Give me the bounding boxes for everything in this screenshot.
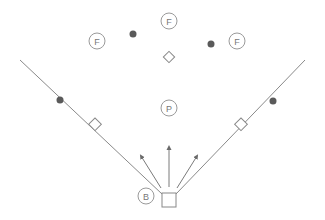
dot-marker-left-field bbox=[130, 31, 137, 38]
fielder-center-label: F bbox=[166, 17, 172, 27]
fielder-left: F bbox=[89, 33, 105, 49]
pitcher-label: P bbox=[166, 104, 172, 114]
third-base-icon bbox=[89, 118, 102, 131]
pitcher: P bbox=[161, 100, 177, 116]
fielder-center: F bbox=[161, 13, 177, 29]
fielder-right-label: F bbox=[234, 37, 240, 47]
home-plate-square bbox=[162, 193, 176, 207]
second-base-icon bbox=[163, 51, 174, 62]
first-base-icon bbox=[235, 118, 248, 131]
baseball-field-diagram: F F F P B bbox=[0, 0, 325, 220]
batter: B bbox=[138, 188, 154, 204]
dot-marker-right-line bbox=[270, 98, 277, 105]
fielder-left-label: F bbox=[94, 37, 100, 47]
batter-label: B bbox=[143, 192, 149, 202]
dot-marker-right-field bbox=[208, 41, 215, 48]
dot-marker-left-line bbox=[57, 97, 64, 104]
fielder-right: F bbox=[229, 33, 245, 49]
